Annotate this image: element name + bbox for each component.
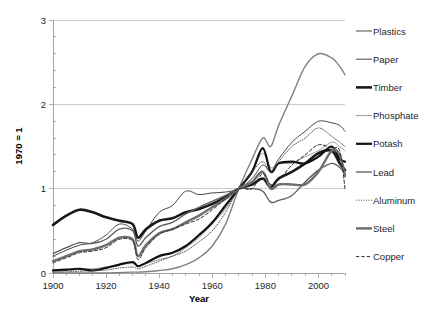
y-tick-label: 3 — [41, 15, 46, 26]
legend-label: Plastics — [373, 26, 406, 37]
legend-label: Copper — [373, 251, 404, 262]
line-chart: 0123 190019201940196019802000 1970 = 1 Y… — [0, 0, 438, 320]
x-minor-ticks — [53, 273, 345, 278]
legend-item-steel[interactable]: Steel — [356, 223, 395, 234]
legend-item-timber[interactable]: Timber — [356, 82, 402, 93]
legend-label: Aluminum — [373, 195, 415, 206]
legend-label: Paper — [373, 54, 398, 65]
legend-label: Phosphate — [373, 110, 418, 121]
y-tick-label: 1 — [41, 183, 46, 194]
legend-item-plastics[interactable]: Plastics — [356, 26, 406, 37]
legend: PlasticsPaperTimberPhosphatePotashLeadAl… — [356, 26, 418, 263]
x-tick-label: 1960 — [202, 280, 223, 291]
legend-item-paper[interactable]: Paper — [356, 54, 398, 65]
x-axis-tick-labels: 190019201940196019802000 — [42, 280, 329, 291]
legend-label: Timber — [373, 82, 402, 93]
legend-label: Lead — [373, 167, 394, 178]
x-tick-label: 1980 — [255, 280, 276, 291]
legend-label: Steel — [373, 223, 395, 234]
x-axis-title: Year — [189, 293, 209, 304]
legend-item-copper[interactable]: Copper — [356, 251, 404, 262]
chart-container: 0123 190019201940196019802000 1970 = 1 Y… — [0, 0, 438, 320]
legend-item-lead[interactable]: Lead — [356, 167, 394, 178]
legend-item-aluminum[interactable]: Aluminum — [356, 195, 415, 206]
legend-item-potash[interactable]: Potash — [356, 138, 403, 149]
y-axis-tick-labels: 0123 — [41, 15, 46, 279]
x-tick-label: 1900 — [42, 280, 63, 291]
y-tick-label: 2 — [41, 99, 46, 110]
y-axis-title: 1970 = 1 — [13, 127, 24, 165]
legend-label: Potash — [373, 138, 403, 149]
y-tick-label: 0 — [41, 268, 46, 279]
x-tick-label: 1940 — [149, 280, 170, 291]
x-tick-label: 1920 — [96, 280, 117, 291]
legend-item-phosphate[interactable]: Phosphate — [356, 110, 418, 121]
x-tick-label: 2000 — [308, 280, 329, 291]
